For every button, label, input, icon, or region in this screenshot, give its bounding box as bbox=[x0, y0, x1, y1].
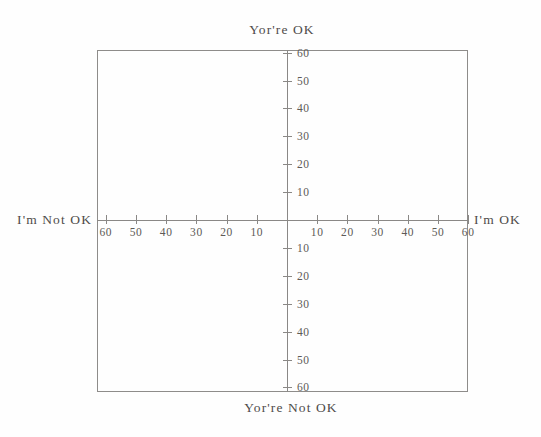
okay-corral-chart: 6050403020101020304050606050403020101020… bbox=[0, 0, 541, 437]
tick-x-neg-50 bbox=[136, 215, 137, 224]
tick-label-y-neg-40: 40 bbox=[297, 326, 310, 338]
tick-label-x-pos-20: 20 bbox=[341, 226, 354, 238]
tick-label-x-neg-10: 10 bbox=[250, 226, 263, 238]
tick-x-pos-10 bbox=[317, 215, 318, 224]
tick-label-x-pos-50: 50 bbox=[432, 226, 445, 238]
tick-label-x-neg-60: 60 bbox=[99, 226, 112, 238]
tick-label-x-neg-40: 40 bbox=[160, 226, 173, 238]
caption-right-im-ok: I'm OK bbox=[474, 212, 521, 228]
y-axis bbox=[287, 50, 288, 392]
x-axis bbox=[97, 220, 468, 221]
tick-x-pos-20 bbox=[347, 215, 348, 224]
tick-x-neg-30 bbox=[196, 215, 197, 224]
tick-label-y-pos-20: 20 bbox=[297, 158, 310, 170]
tick-x-pos-50 bbox=[438, 215, 439, 224]
tick-label-y-neg-60: 60 bbox=[297, 381, 310, 393]
tick-y-pos-30 bbox=[283, 136, 292, 137]
tick-y-neg-50 bbox=[283, 360, 292, 361]
tick-label-x-neg-20: 20 bbox=[220, 226, 233, 238]
tick-y-pos-20 bbox=[283, 164, 292, 165]
tick-y-pos-60 bbox=[283, 53, 292, 54]
plot-frame bbox=[97, 50, 468, 392]
tick-x-neg-40 bbox=[166, 215, 167, 224]
caption-left-im-not-ok: I'm Not OK bbox=[17, 212, 92, 228]
tick-y-neg-20 bbox=[283, 276, 292, 277]
tick-label-y-neg-10: 10 bbox=[297, 242, 310, 254]
tick-label-y-pos-50: 50 bbox=[297, 75, 310, 87]
tick-x-neg-60 bbox=[106, 215, 107, 224]
tick-label-y-pos-30: 30 bbox=[297, 130, 310, 142]
tick-label-y-pos-40: 40 bbox=[297, 102, 310, 114]
tick-y-neg-40 bbox=[283, 332, 292, 333]
tick-y-pos-50 bbox=[283, 81, 292, 82]
tick-x-neg-10 bbox=[257, 215, 258, 224]
tick-label-y-pos-60: 60 bbox=[297, 47, 310, 59]
tick-x-pos-60 bbox=[468, 215, 469, 224]
tick-label-y-neg-20: 20 bbox=[297, 270, 310, 282]
tick-y-neg-60 bbox=[283, 387, 292, 388]
tick-x-pos-30 bbox=[378, 215, 379, 224]
tick-y-pos-10 bbox=[283, 192, 292, 193]
caption-top-youre-ok: Yor're OK bbox=[249, 22, 314, 38]
tick-label-y-neg-30: 30 bbox=[297, 298, 310, 310]
tick-x-neg-20 bbox=[227, 215, 228, 224]
tick-label-x-pos-40: 40 bbox=[401, 226, 414, 238]
tick-y-pos-40 bbox=[283, 108, 292, 109]
tick-label-x-pos-30: 30 bbox=[371, 226, 384, 238]
tick-label-x-neg-30: 30 bbox=[190, 226, 203, 238]
tick-label-y-pos-10: 10 bbox=[297, 186, 310, 198]
tick-label-x-neg-50: 50 bbox=[130, 226, 143, 238]
tick-label-y-neg-50: 50 bbox=[297, 354, 310, 366]
tick-label-x-pos-10: 10 bbox=[311, 226, 324, 238]
tick-y-neg-10 bbox=[283, 248, 292, 249]
tick-label-x-pos-60: 60 bbox=[462, 226, 475, 238]
tick-x-pos-40 bbox=[408, 215, 409, 224]
caption-bottom-youre-not-ok: Yor're Not OK bbox=[244, 400, 337, 416]
tick-y-neg-30 bbox=[283, 304, 292, 305]
